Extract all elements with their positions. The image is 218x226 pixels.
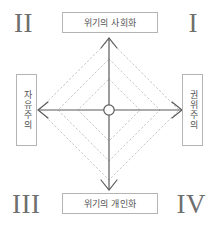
axis-label-box-right: 권위주의 xyxy=(182,74,203,146)
axis-label-top-text: 위기의 사회화 xyxy=(84,16,137,29)
axis-label-box-top: 위기의 사회화 xyxy=(62,12,158,33)
dotted-diamond-outer xyxy=(39,40,179,180)
axis-label-bottom-text: 위기의 개인화 xyxy=(84,197,137,210)
axis-label-left-text: 자유주의 xyxy=(22,90,31,130)
axis-label-box-left: 자유주의 xyxy=(16,74,37,146)
dotted-diamond-inner xyxy=(78,79,140,141)
dotted-diamond-middle xyxy=(58,59,160,161)
arrowhead-group xyxy=(38,38,182,190)
arrowhead-up xyxy=(101,38,117,48)
origin-marker xyxy=(104,105,114,115)
arrowhead-down xyxy=(101,180,117,190)
dotted-diamond-group xyxy=(39,40,179,180)
axis-label-box-bottom: 위기의 개인화 xyxy=(62,193,158,214)
axis-group xyxy=(38,38,182,190)
axis-label-right-text: 권위주의 xyxy=(188,90,197,130)
quadrant-numeral-top-left: II xyxy=(14,10,33,37)
quadrant-numeral-top-right: I xyxy=(189,10,199,37)
arrowhead-right xyxy=(172,102,182,118)
quadrant-numeral-bottom-left: III xyxy=(12,191,40,218)
arrowhead-left xyxy=(38,102,48,118)
quadrant-numeral-bottom-right: IV xyxy=(177,191,207,218)
quadrant-diagram: 위기의 사회화 위기의 개인화 자유주의 권위주의 II I III IV xyxy=(0,0,218,226)
